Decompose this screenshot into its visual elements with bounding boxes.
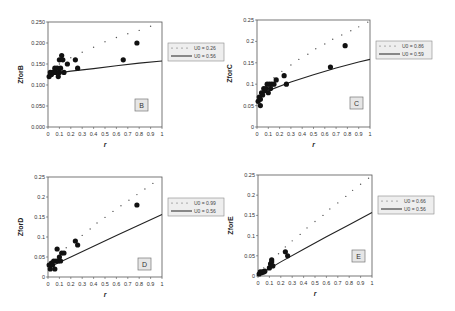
data-point (60, 57, 65, 62)
x-tick-label: 0.7 (124, 281, 132, 287)
x-tick-label: 0.7 (124, 131, 132, 137)
legend-dotted-marker (186, 202, 187, 203)
legend-entry-solid: U0 = 0.59 (402, 51, 424, 57)
plot-frame (257, 20, 370, 127)
x-tick-label: 0.5 (101, 131, 109, 137)
y-tick-label: 0.2 (37, 194, 45, 200)
legend-dotted-marker (384, 45, 385, 46)
dotted-line-marker (281, 71, 282, 72)
dotted-line-marker (322, 215, 323, 216)
x-tick-label: 0.7 (334, 280, 342, 286)
y-tick-label: 0.2 (247, 192, 255, 198)
dotted-line-marker (360, 184, 361, 185)
dotted-line-marker (332, 39, 333, 40)
y-tick-label: 0.250 (31, 19, 45, 25)
dotted-line-marker (299, 234, 300, 235)
panel-label: C (354, 100, 359, 107)
dotted-line-marker (315, 48, 316, 49)
data-point (274, 77, 279, 82)
y-tick-label: 0.2 (246, 38, 254, 44)
legend-dotted-marker (171, 47, 172, 48)
x-tick-label: 0.9 (147, 131, 155, 137)
y-axis-label: ZforB (17, 65, 24, 84)
y-tick-label: 0.15 (243, 60, 254, 66)
data-point (282, 73, 287, 78)
x-tick-label: 1 (370, 280, 373, 286)
dotted-line-marker (341, 34, 342, 35)
x-tick-label: 0.8 (135, 281, 143, 287)
legend-entry-dotted: U0 = 0.26 (194, 45, 216, 51)
y-tick-label: 0 (251, 124, 254, 130)
dotted-line-marker (104, 41, 105, 42)
x-tick-label: 1 (160, 131, 163, 137)
x-tick-label: 0.2 (277, 280, 285, 286)
dotted-line-marker (127, 33, 128, 34)
legend-dotted-marker (381, 200, 382, 201)
x-tick-label: 0.1 (56, 131, 64, 137)
y-axis-label: ZforE (227, 216, 234, 235)
x-tick-label: 0.2 (276, 131, 284, 137)
legend-dotted-marker (379, 45, 380, 46)
legend-dotted-marker (171, 202, 172, 203)
x-tick-label: 0.3 (78, 131, 86, 137)
y-tick-label: 0.1 (37, 234, 45, 240)
dotted-line-marker (352, 190, 353, 191)
legend-dotted-marker (181, 202, 182, 203)
y-tick-label: 0 (252, 273, 255, 279)
y-tick-label: 0.100 (31, 82, 45, 88)
legend-dotted-marker (386, 200, 387, 201)
x-tick-label: 0.3 (288, 280, 296, 286)
x-tick-label: 0.8 (135, 131, 143, 137)
x-tick-label: 0.4 (90, 281, 98, 287)
panel-B: 0.0000.0500.1000.1500.2000.25000.10.20.3… (17, 19, 224, 148)
data-point (55, 246, 60, 251)
dotted-line-marker (292, 240, 293, 241)
dotted-line-marker (152, 183, 153, 184)
dotted-line-marker (324, 43, 325, 44)
dotted-line-marker (70, 57, 71, 58)
x-tick-label: 0 (256, 280, 259, 286)
x-tick-label: 0.1 (264, 131, 272, 137)
dotted-line-marker (139, 30, 140, 31)
x-tick-label: 0.3 (287, 131, 295, 137)
legend-dotted-marker (391, 200, 392, 201)
x-tick-label: 1 (160, 281, 163, 287)
data-point (65, 61, 70, 66)
data-point (73, 57, 78, 62)
y-tick-label: 0.1 (247, 233, 255, 239)
dotted-line-marker (93, 47, 94, 48)
dotted-line-marker (82, 52, 83, 53)
dotted-line-marker (367, 21, 368, 22)
data-point (58, 66, 63, 71)
x-tick-label: 0.2 (67, 131, 75, 137)
y-tick-label: 0.15 (244, 212, 255, 218)
dotted-line-marker (350, 30, 351, 31)
dotted-line-marker (263, 267, 264, 268)
x-tick-label: 0.3 (78, 281, 86, 287)
panel-E: 00.050.10.150.20.2500.10.20.30.40.50.60.… (227, 172, 434, 297)
x-tick-label: 0 (46, 131, 49, 137)
dotted-line-marker (290, 64, 291, 65)
data-point (262, 269, 267, 274)
x-tick-label: 0.8 (345, 280, 353, 286)
x-tick-label: 0.5 (310, 131, 318, 137)
y-tick-label: 0.150 (31, 61, 45, 67)
dotted-line-marker (104, 217, 105, 218)
x-tick-label: 0.4 (300, 280, 308, 286)
x-tick-label: 0.5 (311, 280, 319, 286)
legend-dotted-marker (176, 202, 177, 203)
dotted-line-marker (96, 222, 97, 223)
legend-dotted-marker (394, 45, 395, 46)
dotted-line-marker (120, 205, 121, 206)
x-tick-label: 0.1 (56, 281, 64, 287)
x-tick-label: 0.6 (323, 280, 331, 286)
y-tick-label: 0 (42, 274, 45, 280)
x-tick-label: 1 (368, 131, 371, 137)
legend-dotted-marker (176, 47, 177, 48)
x-tick-label: 0.6 (113, 131, 121, 137)
legend-entry-solid: U0 = 0.56 (194, 53, 216, 59)
x-axis-label: r (314, 290, 318, 297)
data-point (58, 258, 63, 263)
y-tick-label: 0.25 (243, 17, 254, 23)
x-axis-label: r (104, 291, 108, 298)
